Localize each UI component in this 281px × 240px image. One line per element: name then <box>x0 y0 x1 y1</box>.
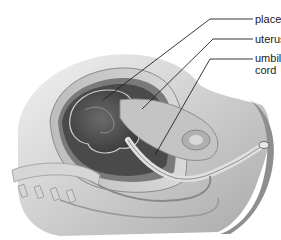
label-umbilical: umbilical <box>255 53 281 64</box>
label-cord: cord <box>255 65 276 76</box>
anatomy-diagram: placenta uterus umbilical cord <box>0 0 281 240</box>
anatomy-illustration <box>0 0 281 240</box>
label-uterus: uterus <box>255 34 281 45</box>
label-placenta: placenta <box>255 14 281 25</box>
